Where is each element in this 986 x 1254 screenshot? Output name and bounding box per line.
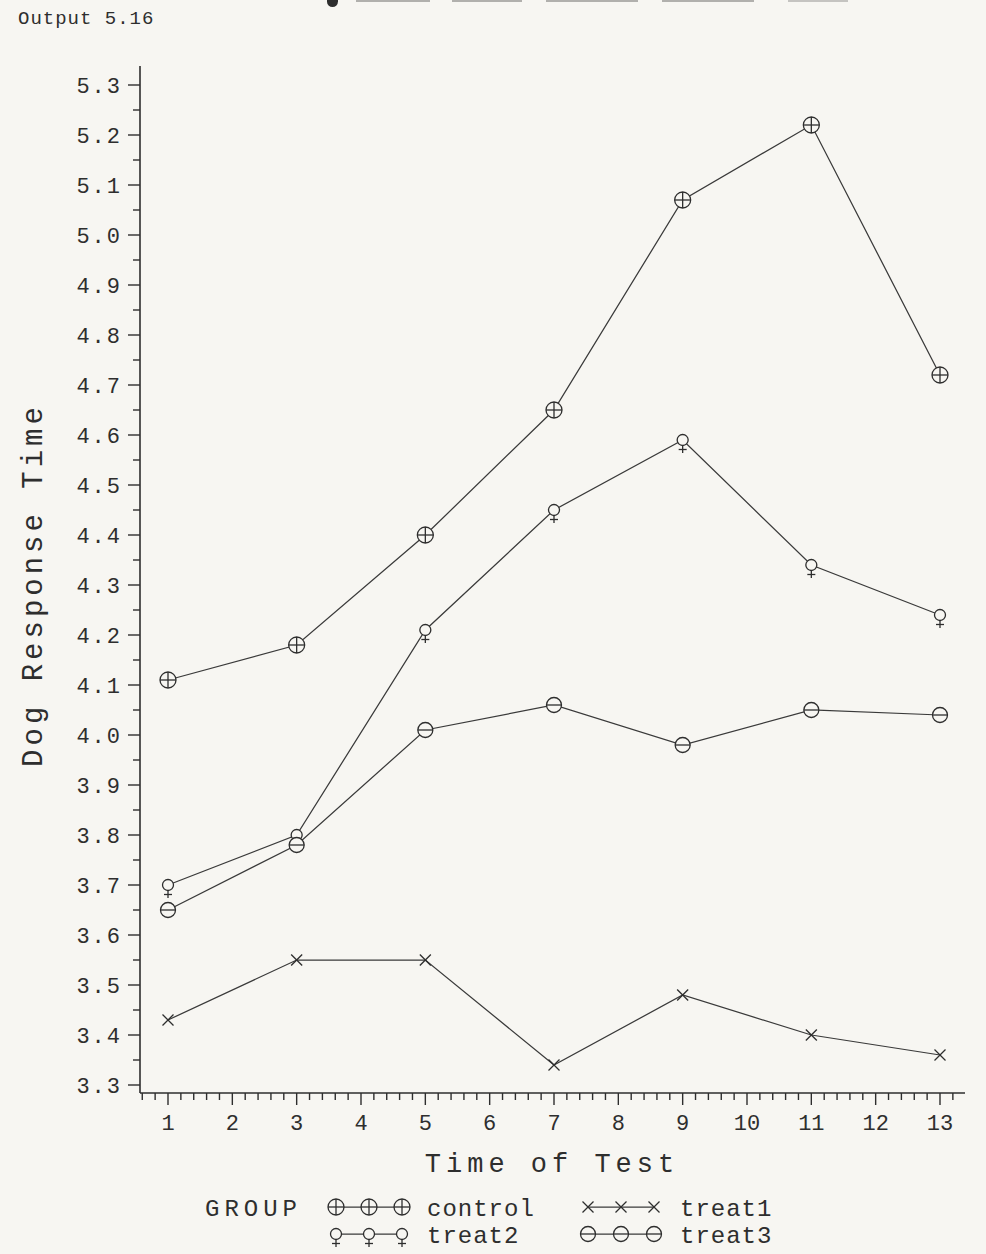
y-tick-label: 3.8 [76,825,122,850]
female-marker-icon [397,1229,408,1248]
y-tick-label: 3.9 [76,775,122,800]
x-tick-label: 13 [927,1112,953,1137]
female-marker-icon [163,880,174,899]
y-tick-label: 4.6 [76,425,122,450]
x-tick-label: 5 [419,1112,432,1137]
treat1-line [168,960,940,1065]
y-tick-label: 5.2 [76,125,122,150]
series-treat2 [163,435,946,899]
circle-minus-marker-icon [804,703,819,718]
y-tick-label: 4.5 [76,475,122,500]
legend-entry-treat2: treat2 [331,1223,520,1250]
x-tick-label: 8 [612,1112,625,1137]
axes [140,66,965,1093]
y-tick-label: 4.1 [76,675,122,700]
legend-entry-treat3: treat3 [581,1223,773,1250]
scanned-page: Output 5.16 3.33.43.53.63.73.83.94.04.14… [0,0,986,1254]
circle-plus-marker-icon [361,1199,377,1215]
x-axis-tick-labels: 12345678910111213 [161,1112,953,1137]
x-tick-label: 12 [862,1112,888,1137]
circle-plus-marker-icon [803,117,819,133]
female-marker-icon [677,435,688,454]
series-control [160,117,948,688]
circle-minus-marker-icon [932,708,947,723]
series-treat1 [163,955,946,1071]
circle-minus-marker-icon [289,838,304,853]
y-tick-label: 5.3 [76,75,122,100]
female-marker-icon [364,1229,375,1248]
circle-minus-marker-icon [418,723,433,738]
circle-plus-marker-icon [289,637,305,653]
y-tick-label: 4.2 [76,625,122,650]
x-tick-label: 11 [798,1112,824,1137]
legend-label: treat1 [680,1196,772,1223]
circle-minus-marker-icon [614,1227,629,1242]
legend-title: GROUP [205,1196,302,1223]
circle-plus-marker-icon [932,367,948,383]
series-treat3 [161,698,948,918]
x-cross-marker-icon [163,1015,174,1026]
y-tick-label: 3.5 [76,975,122,1000]
y-axis-ticks [128,85,140,1085]
y-tick-label: 3.6 [76,925,122,950]
female-marker-icon [420,625,431,644]
legend-label: treat3 [680,1223,772,1250]
y-tick-label: 5.0 [76,225,122,250]
y-tick-label: 3.7 [76,875,122,900]
circle-minus-marker-icon [546,698,561,713]
y-axis-tick-labels: 3.33.43.53.63.73.83.94.04.14.24.34.44.54… [76,75,122,1100]
y-tick-label: 4.0 [76,725,122,750]
y-tick-label: 3.3 [76,1075,122,1100]
legend-label: treat2 [427,1223,519,1250]
y-tick-label: 4.4 [76,525,122,550]
legend-entry-treat1: treat1 [583,1196,773,1223]
y-tick-label: 4.8 [76,325,122,350]
female-marker-icon [806,560,817,579]
x-axis-title: Time of Test [425,1150,679,1180]
x-tick-label: 4 [354,1112,367,1137]
x-tick-label: 1 [161,1112,174,1137]
legend: GROUPcontroltreat1treat2treat3 [205,1196,772,1250]
circle-plus-marker-icon [328,1199,344,1215]
female-marker-icon [331,1229,342,1248]
circle-minus-marker-icon [161,903,176,918]
female-marker-icon [548,505,559,524]
x-cross-marker-icon [677,990,688,1001]
x-tick-label: 6 [483,1112,496,1137]
circle-plus-marker-icon [394,1199,410,1215]
x-tick-label: 2 [226,1112,239,1137]
y-axis-title: Dog Response Time [18,403,51,767]
circle-minus-marker-icon [581,1227,596,1242]
x-cross-marker-icon [548,1060,559,1071]
x-tick-label: 9 [676,1112,689,1137]
circle-plus-marker-icon [160,672,176,688]
circle-minus-marker-icon [675,738,690,753]
y-tick-label: 3.4 [76,1025,122,1050]
y-tick-label: 4.9 [76,275,122,300]
x-tick-label: 3 [290,1112,303,1137]
circle-plus-marker-icon [675,192,691,208]
circle-plus-marker-icon [546,402,562,418]
legend-entry-control: control [328,1196,535,1223]
circle-minus-marker-icon [647,1227,662,1242]
y-tick-label: 4.3 [76,575,122,600]
treat3-line [168,705,940,910]
y-tick-label: 4.7 [76,375,122,400]
female-marker-icon [934,610,945,629]
x-axis-ticks [142,1093,953,1105]
legend-label: control [427,1196,535,1223]
y-tick-label: 5.1 [76,175,122,200]
x-tick-label: 7 [547,1112,560,1137]
x-tick-label: 10 [734,1112,760,1137]
chart-svg: 3.33.43.53.63.73.83.94.04.14.24.34.44.54… [0,0,986,1254]
circle-plus-marker-icon [417,527,433,543]
